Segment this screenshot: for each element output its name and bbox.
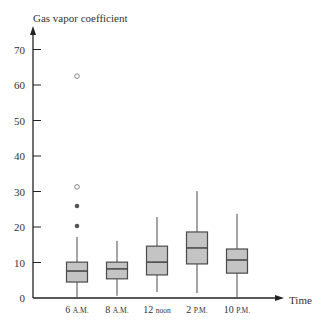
box-10-p-m- [227,214,248,298]
iqr-box [67,262,88,282]
box-plot-chart: Gas vapor coefficient 010203040506070 Ti… [0,0,327,332]
outlier-open [75,185,80,190]
iqr-box [147,246,168,275]
x-tick-label: 12 noon [143,304,171,315]
x-tick-label: 8 A.M. [105,304,128,315]
y-tick-label: 20 [14,221,26,233]
iqr-box [107,262,128,279]
x-tick-label: 10 P.M. [224,304,250,315]
outlier-filled [75,204,80,209]
y-tick-label: 40 [14,150,26,162]
y-tick-label: 60 [14,79,26,91]
outlier-open [75,74,80,79]
x-axis-label: Time [289,294,312,306]
box-6-a-m- [67,74,88,298]
y-axis-label: Gas vapor coefficient [33,12,127,24]
y-tick-label: 10 [14,257,26,269]
box-series [67,74,248,298]
box-8-a-m- [107,241,128,296]
box-12-noon [147,217,168,292]
x-tick-label: 6 A.M. [65,304,88,315]
y-tick-label: 70 [14,44,26,56]
y-tick-label: 30 [14,186,26,198]
outlier-filled [75,224,80,229]
y-axis: 010203040506070 [14,26,41,304]
box-2-p-m- [187,191,208,293]
y-tick-label: 50 [14,115,26,127]
x-tick-labels: 6 A.M.8 A.M.12 noon2 P.M.10 P.M. [65,304,250,315]
x-tick-label: 2 P.M. [186,304,207,315]
x-axis [33,295,284,301]
iqr-box [227,249,248,273]
y-tick-label: 0 [20,292,26,304]
